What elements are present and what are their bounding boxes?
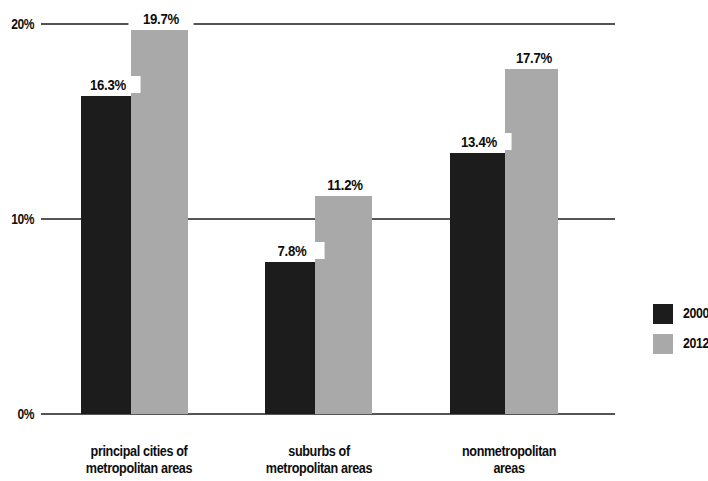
- bar-2000-suburbs: [265, 262, 315, 414]
- category-label-line-2: metropolitan areas: [234, 460, 405, 477]
- bar-label-2000-suburbs: 7.8%: [259, 242, 324, 259]
- bar-label-2000-principal-cities: 16.3%: [75, 76, 140, 93]
- legend-swatch-icon-2000: [653, 304, 673, 324]
- category-label-nonmetropolitan: nonmetropolitan areas: [424, 443, 595, 477]
- bar-2000-nonmetropolitan: [450, 153, 505, 414]
- bar-2000-principal-cities: [81, 96, 131, 414]
- legend-label-2000: 2000: [683, 305, 708, 321]
- category-label-line-1: suburbs of: [288, 443, 350, 459]
- legend-label-2012: 2012: [683, 335, 708, 351]
- legend-swatch-icon-2012: [653, 334, 673, 354]
- category-label-line-2: areas: [424, 460, 595, 477]
- bar-label-2000-nonmetropolitan: 13.4%: [446, 133, 511, 150]
- plot-area: 20% 10% 0% 16.3% 19.7% 7.8% 11.2% 13.4% …: [0, 0, 708, 481]
- gridline-20: [41, 23, 615, 25]
- y-tick-label-0: 0%: [5, 406, 34, 422]
- bar-2012-suburbs: [315, 196, 372, 414]
- bar-label-2012-suburbs: 11.2%: [312, 176, 377, 193]
- bar-label-2012-principal-cities: 19.7%: [128, 10, 193, 27]
- bar-chart-figure: 20% 10% 0% 16.3% 19.7% 7.8% 11.2% 13.4% …: [0, 0, 708, 481]
- category-label-line-1: principal cities of: [91, 443, 188, 459]
- bar-2012-nonmetropolitan: [505, 69, 558, 414]
- y-tick-label-10: 10%: [5, 211, 34, 227]
- category-label-principal-cities: principal cities of metropolitan areas: [54, 443, 225, 477]
- category-label-suburbs: suburbs of metropolitan areas: [234, 443, 405, 477]
- bar-label-2012-nonmetropolitan: 17.7%: [501, 49, 566, 66]
- category-label-line-1: nonmetropolitan: [462, 443, 556, 459]
- category-label-line-2: metropolitan areas: [54, 460, 225, 477]
- y-tick-label-20: 20%: [5, 16, 34, 32]
